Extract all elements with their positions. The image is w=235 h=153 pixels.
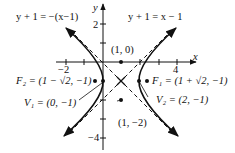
center-marker — [117, 77, 125, 85]
focus-f1-label: F₁ = (1 + √2, −1) — [152, 76, 228, 87]
x-tick-4: 4 — [173, 65, 178, 76]
y-tick-2: 2 — [93, 20, 98, 31]
x-tick-neg2: −2 — [58, 65, 69, 76]
point-label-bottom: (1, −2) — [118, 118, 147, 129]
vertex-v2-label: V₂ = (2, −1) — [156, 95, 208, 106]
x-axis-label: x — [193, 52, 198, 63]
asymptote-label-right: y + 1 = x − 1 — [128, 12, 183, 23]
point-label-top: (1, 0) — [111, 45, 134, 56]
asymptote-label-left: y + 1 = −(x−1) — [16, 12, 78, 23]
focus-f2-label: F₂ = (1 − √2, −1) — [16, 76, 92, 87]
y-tick-neg4: −4 — [88, 133, 99, 144]
y-axis-label: y — [93, 3, 98, 14]
vertex-v1-label: V₁ = (0, −1) — [24, 98, 76, 109]
